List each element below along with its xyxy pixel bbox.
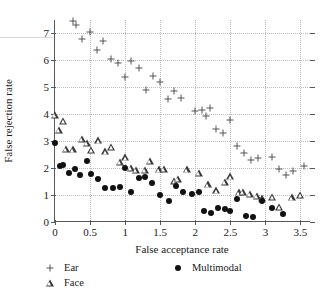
data-point-face (59, 118, 67, 125)
y-axis-title: False rejection rate (2, 79, 14, 163)
legend-label-face: Face (64, 277, 84, 288)
x-axis-tick-label: 3.5 (294, 227, 308, 238)
data-point-ear (94, 47, 101, 54)
legend-item-face: Face (44, 275, 84, 290)
data-point-multimodal (57, 163, 63, 169)
data-point-face (221, 179, 229, 186)
data-point-multimodal (77, 172, 83, 178)
data-point-ear (143, 87, 150, 94)
data-point-ear (171, 87, 178, 94)
y-axis-tick-right (310, 60, 315, 61)
data-point-face (87, 147, 95, 154)
data-point-ear (122, 74, 129, 81)
legend-item-ear: Ear (44, 260, 84, 275)
data-point-face (174, 175, 182, 182)
data-point-multimodal (88, 171, 94, 177)
data-point-multimodal (173, 183, 179, 189)
data-point-ear (108, 56, 115, 63)
legend-label-ear: Ear (64, 262, 79, 273)
y-axis-tick-right (310, 33, 315, 34)
data-point-face (235, 189, 243, 196)
y-axis-tick-label: 1 (44, 190, 50, 201)
data-point-multimodal (250, 214, 256, 220)
data-point-multimodal (95, 176, 101, 182)
data-point-multimodal (189, 191, 195, 197)
data-point-face (195, 169, 203, 176)
data-point-ear (255, 154, 262, 161)
data-point-ear (157, 79, 164, 86)
data-point-ear (213, 125, 220, 132)
data-point-ear (241, 149, 248, 156)
y-axis-tick-label: 4 (44, 109, 50, 120)
legend-label-multimodal: Multimodal (192, 262, 242, 273)
data-point-face (183, 166, 191, 173)
data-point-ear (177, 95, 184, 102)
data-point-face (146, 157, 154, 164)
data-point-face (55, 126, 63, 133)
legend-column-left: Ear Face (44, 260, 84, 290)
data-point-multimodal (259, 198, 265, 204)
data-point-face (288, 194, 296, 201)
y-axis-tick-label: 5 (44, 82, 50, 93)
data-point-face (212, 187, 220, 194)
chart-legend: Ear Face Multimodal (0, 258, 326, 297)
y-axis-tick-right (310, 195, 315, 196)
data-point-multimodal (142, 174, 148, 180)
data-point-face (127, 165, 135, 172)
data-point-ear (100, 37, 107, 44)
data-point-face (253, 192, 261, 199)
y-axis-tick-right (310, 114, 315, 115)
data-point-ear (220, 130, 227, 137)
data-point-multimodal (208, 210, 214, 216)
data-point-multimodal (222, 206, 228, 212)
y-axis-tick-label: 0 (44, 217, 50, 228)
y-axis-tick-right (310, 168, 315, 169)
data-point-ear (164, 95, 171, 102)
data-point-ear (300, 162, 307, 169)
data-point-multimodal (196, 189, 202, 195)
data-point-multimodal (136, 175, 142, 181)
y-axis-tick-label: 6 (44, 55, 50, 66)
data-point-multimodal (227, 208, 233, 214)
data-point-multimodal (166, 198, 172, 204)
legend-column-right: Multimodal (172, 260, 242, 275)
data-point-ear (207, 105, 214, 112)
data-point-multimodal (243, 213, 249, 219)
y-axis-tick-right (310, 87, 315, 88)
data-point-face (101, 148, 109, 155)
data-point-multimodal (269, 205, 275, 211)
data-point-face (69, 146, 77, 153)
data-point-multimodal (66, 170, 72, 176)
data-point-multimodal (280, 211, 286, 217)
x-axis-tick-label: 1 (122, 227, 128, 238)
data-point-multimodal (84, 158, 90, 164)
x-axis-tick-label: 0.5 (83, 227, 97, 238)
data-point-ear (202, 112, 209, 119)
data-point-ear (150, 73, 157, 80)
data-point-ear (199, 106, 206, 113)
data-point-multimodal (149, 180, 155, 186)
data-point-face (78, 136, 86, 143)
data-point-multimodal (72, 166, 78, 172)
data-point-multimodal (102, 185, 108, 191)
data-point-face (160, 165, 168, 172)
data-point-face (62, 145, 70, 152)
data-point-face (170, 178, 178, 185)
data-point-face (204, 181, 212, 188)
data-point-face (121, 154, 129, 161)
x-axis-tick-label: 1.5 (153, 227, 167, 238)
data-point-face (155, 166, 163, 173)
data-point-ear (79, 35, 86, 42)
x-axis-tick-label: 0 (52, 227, 58, 238)
data-point-ear (136, 65, 143, 72)
data-point-multimodal (128, 189, 134, 195)
data-point-multimodal (110, 185, 116, 191)
x-axis-tick-label: 3 (263, 227, 269, 238)
plus-marker-icon (44, 263, 56, 273)
data-point-ear (234, 143, 241, 150)
data-point-face (141, 167, 149, 174)
data-point-multimodal (215, 205, 221, 211)
data-point-face (258, 195, 266, 202)
data-point-ear (115, 60, 122, 67)
data-point-ear (69, 18, 76, 25)
